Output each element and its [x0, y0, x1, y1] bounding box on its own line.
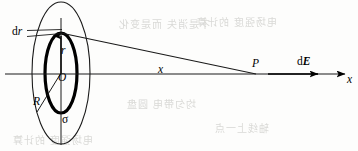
diagram-vector-layer: [0, 0, 358, 151]
label-surface-charge-density-sigma: σ: [62, 114, 68, 126]
label-dE-field-vector: E: [303, 55, 311, 67]
label-dE: dE: [297, 56, 310, 68]
label-dr: dr: [12, 26, 22, 38]
label-disk-radius-R: R: [33, 96, 40, 108]
label-ring-radius-r: r: [61, 45, 65, 57]
label-field-point-P: P: [252, 58, 259, 70]
figure-canvas: 不是消失 而是变化 电场强度 的计算 均匀带电 圆盘 轴线上一点 电场强度 的计…: [0, 0, 358, 151]
label-dr-variable: r: [18, 25, 22, 37]
dr-leader-line-upper: [27, 30, 62, 31]
label-x-axis: x: [347, 74, 352, 86]
label-axial-distance-x: x: [158, 64, 163, 76]
label-center-O: O: [58, 72, 66, 84]
